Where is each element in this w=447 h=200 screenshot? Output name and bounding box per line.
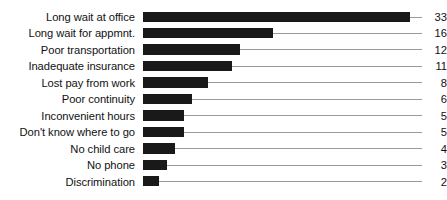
value-label: 5: [425, 108, 447, 124]
chart-row: Inconvenient hours5: [0, 108, 447, 124]
category-label: Poor transportation: [0, 42, 135, 58]
bar: [143, 127, 184, 137]
value-label: 11: [425, 58, 447, 74]
leader-line: [159, 181, 422, 182]
bar: [143, 176, 159, 186]
category-label: Don't know where to go: [0, 124, 135, 140]
category-label: Discrimination: [0, 174, 135, 190]
leader-line: [184, 132, 423, 133]
category-label: No child care: [0, 141, 135, 157]
bar: [143, 44, 240, 54]
value-label: 12: [425, 42, 447, 58]
value-label: 33: [425, 9, 447, 25]
leader-line: [232, 66, 422, 67]
bar: [143, 110, 184, 120]
bar: [143, 77, 208, 87]
bar: [143, 160, 167, 170]
bar: [143, 12, 410, 22]
leader-line: [184, 115, 423, 116]
value-label: 5: [425, 124, 447, 140]
value-label: 4: [425, 141, 447, 157]
leader-line: [167, 165, 422, 166]
bar: [143, 94, 192, 104]
value-label: 6: [425, 91, 447, 107]
leader-line: [175, 148, 422, 149]
chart-row: Don't know where to go5: [0, 124, 447, 140]
plot-area: Long wait at office33Long wait for appmn…: [0, 0, 447, 200]
bar: [143, 28, 273, 38]
category-label: Lost pay from work: [0, 75, 135, 91]
chart-row: Long wait at office33: [0, 9, 447, 25]
value-label: 8: [425, 75, 447, 91]
leader-line: [273, 33, 423, 34]
value-label: 3: [425, 157, 447, 173]
chart-row: No child care4: [0, 141, 447, 157]
chart-row: No phone3: [0, 157, 447, 173]
chart-row: Long wait for appmnt.16: [0, 25, 447, 41]
category-label: No phone: [0, 157, 135, 173]
leader-line: [410, 17, 422, 18]
chart-row: Discrimination2: [0, 174, 447, 190]
leader-line: [192, 99, 423, 100]
category-label: Long wait for appmnt.: [0, 25, 135, 41]
value-label: 2: [425, 174, 447, 190]
chart-row: Inadequate insurance11: [0, 58, 447, 74]
category-label: Inconvenient hours: [0, 108, 135, 124]
bar: [143, 61, 232, 71]
chart-row: Poor transportation12: [0, 42, 447, 58]
category-label: Inadequate insurance: [0, 58, 135, 74]
chart-row: Poor continuity6: [0, 91, 447, 107]
chart-row: Lost pay from work8: [0, 75, 447, 91]
category-label: Long wait at office: [0, 9, 135, 25]
leader-line: [240, 49, 422, 50]
category-label: Poor continuity: [0, 91, 135, 107]
value-label: 16: [425, 25, 447, 41]
bar: [143, 143, 175, 153]
bar-chart: Long wait at office33Long wait for appmn…: [0, 0, 447, 200]
leader-line: [208, 82, 422, 83]
